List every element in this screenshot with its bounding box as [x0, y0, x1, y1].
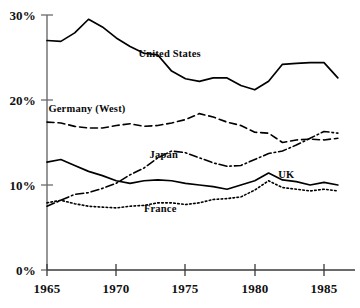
x-tick-label-1985: 1985 [294, 281, 354, 297]
x-tick-label-1965: 1965 [17, 281, 77, 297]
line-chart-plot [0, 0, 360, 308]
series-label-japan: Japan [150, 149, 178, 160]
y-tick-label-20: 20% [0, 93, 36, 109]
y-tick-label-0: 0% [0, 263, 36, 279]
series-line-germany-west [47, 114, 338, 143]
series-label-germany-west: Germany (West) [48, 103, 125, 114]
x-tick-label-1970: 1970 [86, 281, 146, 297]
series-label-uk: UK [278, 169, 294, 180]
series-label-united-states: United States [138, 48, 200, 59]
series-label-france: France [144, 203, 177, 214]
x-tick-label-1975: 1975 [155, 281, 215, 297]
x-tick-label-1980: 1980 [225, 281, 285, 297]
y-tick-label-10: 10% [0, 178, 36, 194]
chart-container: 30% 20% 10% 0% 1965 1970 1975 1980 1985 … [0, 0, 360, 308]
y-tick-label-30: 30% [0, 8, 36, 24]
